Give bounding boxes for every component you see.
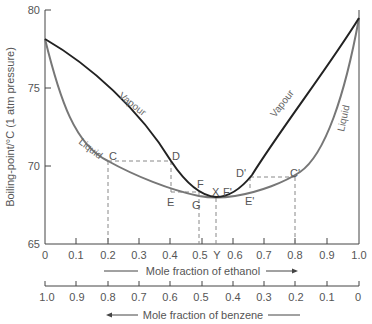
- x-axis-label-ethanol: Mole fraction of ethanol: [146, 265, 260, 277]
- point-label-X: X: [212, 186, 220, 198]
- x-tick-0.4: 0.4: [162, 249, 177, 261]
- x-tick-0.1: 0.1: [68, 249, 83, 261]
- x-tick-0.7: 0.7: [256, 249, 271, 261]
- point-label-E: E: [167, 196, 174, 208]
- point-label-C-prime: C': [290, 167, 300, 179]
- benzene-tick-labels: 1.0 0.9 0.8 0.7 0.6 0.5 0.4 0.3 0.2 0.1 …: [39, 291, 361, 303]
- vapour-label-left: Vapour: [117, 90, 149, 118]
- x-tick-0.2: 0.2: [100, 249, 115, 261]
- x-tick-0.8: 0.8: [287, 249, 302, 261]
- point-label-D: D: [172, 150, 180, 162]
- point-label-F: F: [197, 178, 204, 190]
- b-tick-0.4: 0.4: [225, 291, 240, 303]
- point-label-G: G: [192, 199, 201, 211]
- x-tick-0.9: 0.9: [319, 249, 334, 261]
- arrow-right-icon: [292, 269, 298, 274]
- b-tick-0.2: 0.2: [288, 291, 303, 303]
- b-tick-1.0: 1.0: [39, 291, 54, 303]
- y-axis-label: Boiling-point/°C (1 atm pressure): [4, 47, 16, 207]
- b-tick-0.6: 0.6: [162, 291, 177, 303]
- point-label-F-prime: F': [223, 186, 232, 198]
- boiling-point-diagram: 80 75 70 65 Boiling-point/°C (1 atm pres…: [0, 0, 372, 324]
- b-tick-0.3: 0.3: [256, 291, 271, 303]
- axes: [45, 10, 359, 244]
- b-tick-0.7: 0.7: [131, 291, 146, 303]
- x-tick-0.6: 0.6: [227, 249, 242, 261]
- x-tick-labels: 0 0.1 0.2 0.3 0.4 0.5 0.6 0.7 0.8 0.9 1.…: [42, 249, 367, 261]
- y-tick-70: 70: [28, 160, 40, 172]
- construction-lines: [108, 161, 295, 244]
- b-tick-0.9: 0.9: [69, 291, 84, 303]
- y-tick-labels: 80 75 70 65: [28, 4, 40, 250]
- ethanol-axis-label: Mole fraction of ethanol: [104, 265, 298, 277]
- x-tick-0.3: 0.3: [131, 249, 146, 261]
- y-tick-80: 80: [28, 4, 40, 16]
- liquid-curve: [45, 18, 359, 198]
- point-label-Y: Y: [213, 249, 221, 261]
- benzene-axis: [45, 281, 359, 286]
- benzene-axis-label: Mole fraction of benzene: [106, 309, 300, 321]
- x-axis-label-benzene: Mole fraction of benzene: [143, 309, 263, 321]
- x-tick-1.0: 1.0: [351, 249, 366, 261]
- point-label-E-prime: E': [245, 195, 254, 207]
- y-tick-65: 65: [28, 238, 40, 250]
- point-labels: C D E F G X F' D' E' C': [109, 150, 300, 211]
- b-tick-0.5: 0.5: [193, 291, 208, 303]
- x-tick-0.5: 0.5: [192, 249, 207, 261]
- y-tick-75: 75: [28, 82, 40, 94]
- x-ticks: [76, 238, 327, 244]
- b-tick-0.1: 0.1: [319, 291, 334, 303]
- x-tick-0: 0: [42, 249, 48, 261]
- liquid-label-left: Liquid: [77, 136, 105, 161]
- vapour-curve: [45, 18, 359, 197]
- b-tick-0: 0: [355, 291, 361, 303]
- b-tick-0.8: 0.8: [100, 291, 115, 303]
- point-label-C: C: [109, 150, 117, 162]
- point-label-D-prime: D': [236, 167, 246, 179]
